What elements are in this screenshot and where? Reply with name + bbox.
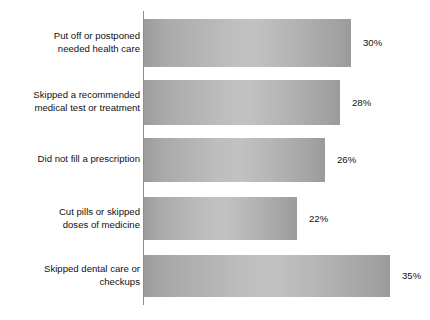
bar-value-label: 35% [402,270,421,282]
bar-category-label: Put off or postponed needed health care [8,30,140,55]
bar-value-label: 28% [352,97,371,109]
bar-skipped-test [144,80,340,125]
bar-fill [144,255,390,297]
bar-value-label: 22% [309,213,328,225]
bar-category-label: Cut pills or skipped doses of medicine [8,206,140,231]
bar-chart: Put off or postponed needed health care … [0,0,430,320]
bar-no-prescription [144,138,325,182]
bar-value-label: 26% [337,154,356,166]
bar-value-label: 30% [363,37,382,49]
bar-put-off-care [144,19,351,67]
bar-category-label: Did not fill a prescription [8,153,140,166]
bar-fill [144,80,340,125]
bar-category-label: Skipped a recommended medical test or tr… [8,89,140,114]
bar-skipped-dental [144,255,390,297]
bar-fill [144,19,351,67]
plot-area: Put off or postponed needed health care … [0,0,430,320]
bar-fill [144,197,297,240]
bar-category-label: Skipped dental care or checkups [8,263,140,288]
bar-cut-pills [144,197,297,240]
bar-fill [144,138,325,182]
